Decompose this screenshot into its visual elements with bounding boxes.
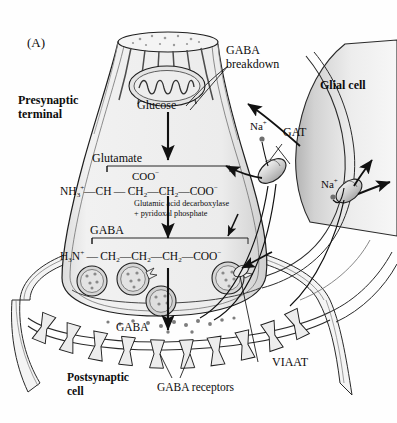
docked-vesicle [146, 286, 176, 316]
gaba-cleft-label: GABA [116, 321, 149, 334]
postsynaptic-cell-label-line1: Postsynaptic [67, 371, 129, 384]
glutamate-label: Glutamate [92, 152, 142, 165]
glutamate-formula: NH3+—CH — CH2—CH2—COO− [60, 185, 218, 200]
line-na-to-gat-presyn [262, 142, 268, 166]
gaba-formula: H3N+ — CH2—CH2—CH2—COO− [60, 250, 221, 265]
gaba-breakdown-label-line1: GABA [226, 44, 260, 57]
presynaptic-terminal-label-line1: Presynaptic [18, 94, 78, 107]
sodium-label-glial: Na+ [321, 178, 338, 190]
gaba-label: GABA [90, 224, 124, 237]
glial-cell-label: Glial cell [320, 79, 366, 92]
enzyme-label-line1: Glutamic acid decarboxylase [134, 199, 229, 208]
gaba-breakdown-label-line2: breakdown [226, 58, 279, 71]
sodium-label-presynaptic: Na+ [250, 120, 267, 132]
sodium-ion-presynaptic-dot [259, 136, 264, 141]
glutamate-branch-carboxyl: COO− [132, 170, 159, 182]
sodium-ion-glial-dot [330, 194, 335, 199]
gat-transporter-presynaptic [254, 154, 291, 189]
panel-label: (A) [27, 36, 45, 51]
gaba-receptors-group [32, 308, 309, 368]
gat-label: GAT [283, 126, 306, 139]
glial-cell-body [296, 40, 397, 236]
gaba-receptors-label: GABA receptors [157, 381, 234, 394]
glucose-label: Glucose [137, 99, 176, 112]
viaat-label: VIAAT [272, 356, 308, 369]
presynaptic-terminal-label-line2: terminal [18, 108, 62, 121]
postsynaptic-cell-label-line2: cell [67, 385, 84, 398]
enzyme-label-line2: + pyridoxal phosphate [134, 209, 207, 218]
figure-canvas: (A) Presynaptic terminal Glucose Glutama… [0, 0, 397, 423]
